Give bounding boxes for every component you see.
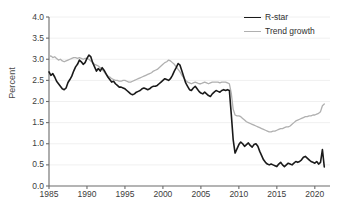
x-tick-label: 2015: [257, 190, 297, 199]
x-tick-label: 2000: [143, 190, 183, 199]
x-tick-label: 2005: [181, 190, 221, 199]
chart-legend: R-starTrend growth: [244, 12, 315, 37]
y-axis-title: Percent: [7, 53, 17, 113]
x-tick-label: 1995: [105, 190, 145, 199]
legend-swatch-icon: [244, 17, 261, 18]
x-tick-label: 1990: [67, 190, 107, 199]
x-tick-label: 2010: [219, 190, 259, 199]
legend-label: R-star: [265, 13, 288, 22]
chart-container: 0.00.51.01.52.02.53.03.54.0 198519901995…: [0, 0, 342, 210]
legend-label: Trend growth: [265, 27, 315, 36]
x-tick-label: 1985: [29, 190, 69, 199]
legend-item: R-star: [244, 12, 315, 23]
legend-swatch-icon: [244, 31, 261, 32]
x-tick-label: 2020: [295, 190, 335, 199]
legend-item: Trend growth: [244, 26, 315, 37]
